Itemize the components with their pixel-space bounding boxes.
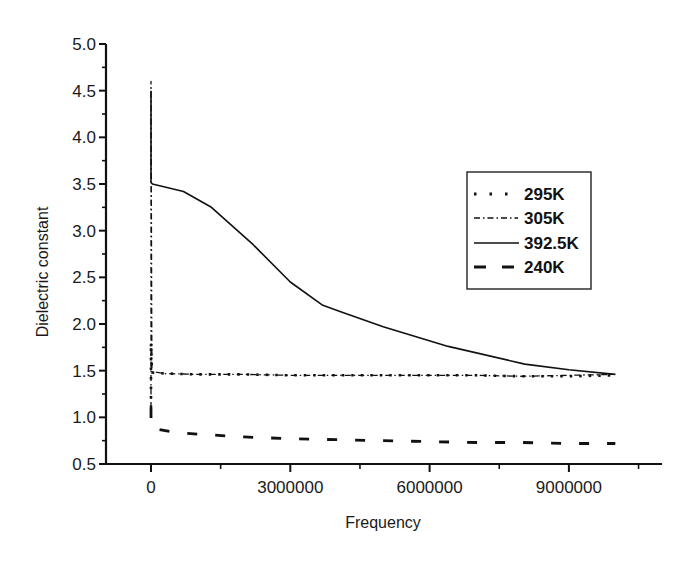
legend-label: 240K (524, 258, 565, 277)
y-tick-label: 2.0 (72, 315, 96, 334)
x-tick-label: 3000000 (257, 478, 323, 497)
y-tick-label: 5.0 (72, 35, 96, 54)
dielectric-constant-chart: 0.51.01.52.02.53.03.54.04.55.00300000060… (0, 0, 693, 567)
y-tick-label: 2.5 (72, 268, 96, 287)
x-tick-label: 0 (146, 478, 155, 497)
y-tick-label: 4.0 (72, 128, 96, 147)
y-tick-label: 0.5 (72, 455, 96, 474)
series-line-240k (151, 408, 615, 444)
y-axis-title: Dielectric constant (34, 206, 51, 337)
legend-label: 392.5K (524, 234, 580, 253)
y-tick-label: 1.0 (72, 408, 96, 427)
y-tick-label: 1.5 (72, 362, 96, 381)
y-tick-label: 4.5 (72, 82, 96, 101)
legend-label: 305K (524, 209, 565, 228)
series-line-295k (151, 343, 615, 408)
x-axis-title: Frequency (345, 514, 421, 531)
legend: 295K 305K 392.5K 240K (467, 172, 591, 289)
x-tick-label: 6000000 (397, 478, 463, 497)
y-tick-label: 3.0 (72, 222, 96, 241)
y-tick-label: 3.5 (72, 175, 96, 194)
x-tick-label: 9000000 (536, 478, 602, 497)
legend-label: 295K (524, 185, 565, 204)
